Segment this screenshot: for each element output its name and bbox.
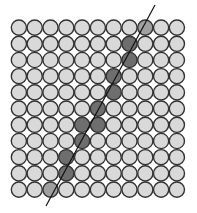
pixel-cell: [169, 117, 184, 132]
pixel-cell: [138, 150, 153, 165]
pixel-cell: [154, 69, 169, 84]
pixel-cell: [154, 117, 169, 132]
pixel-cell: [11, 101, 26, 116]
raster-grid-diagram: [0, 0, 197, 213]
pixel-cell: [138, 85, 153, 100]
pixel-cell: [90, 150, 105, 165]
pixel-cell: [138, 133, 153, 148]
shaded-pixel-cell: [122, 52, 137, 67]
pixel-cell: [43, 150, 58, 165]
pixel-cell: [169, 133, 184, 148]
pixel-cell: [59, 36, 74, 51]
pixel-cell: [43, 20, 58, 35]
shaded-pixel-cell: [122, 36, 137, 51]
pixel-cell: [138, 182, 153, 197]
pixel-cell: [106, 20, 121, 35]
pixel-cell: [138, 52, 153, 67]
pixel-cell: [106, 133, 121, 148]
pixel-cell: [106, 36, 121, 51]
pixel-cell: [11, 69, 26, 84]
pixel-cell: [138, 101, 153, 116]
pixel-cell: [122, 182, 137, 197]
pixel-cell: [122, 101, 137, 116]
pixel-cell: [169, 150, 184, 165]
pixel-cell: [90, 52, 105, 67]
pixel-cell: [169, 36, 184, 51]
pixel-cell: [11, 182, 26, 197]
pixel-cell: [11, 117, 26, 132]
shaded-pixel-cell: [106, 85, 121, 100]
pixel-cell: [122, 85, 137, 100]
pixel-cell: [43, 85, 58, 100]
pixel-cell: [43, 101, 58, 116]
pixel-cell: [27, 117, 42, 132]
pixel-cell: [106, 101, 121, 116]
pixel-cell: [138, 36, 153, 51]
pixel-cell: [90, 20, 105, 35]
pixel-cell: [90, 133, 105, 148]
pixel-cell: [59, 133, 74, 148]
pixel-cell: [11, 166, 26, 181]
pixel-cell: [43, 117, 58, 132]
pixel-cell: [59, 85, 74, 100]
pixel-cell: [59, 101, 74, 116]
pixel-cell: [154, 182, 169, 197]
pixel-cell: [90, 166, 105, 181]
pixel-cell: [27, 182, 42, 197]
pixel-cell: [11, 36, 26, 51]
pixel-cell: [154, 36, 169, 51]
pixel-cell: [90, 182, 105, 197]
pixel-cell: [75, 85, 90, 100]
pixel-cell: [122, 117, 137, 132]
pixel-cell: [11, 85, 26, 100]
pixel-cell: [122, 150, 137, 165]
pixel-cell: [138, 166, 153, 181]
pixel-cell: [11, 150, 26, 165]
shaded-pixel-cell: [90, 101, 105, 116]
pixel-cell: [106, 182, 121, 197]
pixel-cell: [27, 150, 42, 165]
pixel-cell: [59, 52, 74, 67]
pixel-cell: [75, 20, 90, 35]
pixel-cell: [154, 85, 169, 100]
pixel-cell: [43, 133, 58, 148]
pixel-cell: [154, 20, 169, 35]
pixel-cell: [169, 85, 184, 100]
pixel-cell: [154, 166, 169, 181]
pixel-cell: [106, 150, 121, 165]
pixel-cell: [75, 150, 90, 165]
pixel-cell: [138, 69, 153, 84]
pixel-cell: [106, 52, 121, 67]
pixel-cell: [169, 52, 184, 67]
pixel-cell: [90, 85, 105, 100]
pixel-cell: [75, 69, 90, 84]
pixel-cell: [122, 20, 137, 35]
pixel-cell: [11, 52, 26, 67]
shaded-pixel-cell: [75, 133, 90, 148]
pixel-cell: [59, 20, 74, 35]
pixel-cell: [59, 182, 74, 197]
pixel-cell: [75, 166, 90, 181]
pixel-cell: [154, 150, 169, 165]
pixel-cell: [138, 117, 153, 132]
pixel-cell: [154, 52, 169, 67]
pixel-cell: [27, 52, 42, 67]
pixel-cell: [27, 20, 42, 35]
pixel-cell: [169, 101, 184, 116]
pixel-cell: [122, 69, 137, 84]
pixel-cell: [169, 182, 184, 197]
pixel-cell: [122, 166, 137, 181]
pixel-cell: [154, 101, 169, 116]
pixel-cell: [27, 133, 42, 148]
pixel-cell: [75, 36, 90, 51]
shaded-pixel-cell: [59, 150, 74, 165]
pixel-cell: [27, 166, 42, 181]
pixel-cell: [169, 20, 184, 35]
pixel-cell: [59, 117, 74, 132]
pixel-cell: [59, 69, 74, 84]
pixel-cell: [75, 101, 90, 116]
pixel-cell: [106, 166, 121, 181]
pixel-cell: [27, 69, 42, 84]
pixel-cell: [43, 69, 58, 84]
pixel-cell: [75, 52, 90, 67]
